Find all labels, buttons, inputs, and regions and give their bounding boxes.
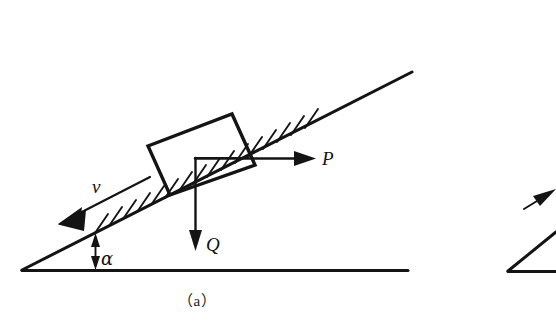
partial-incline-line — [508, 232, 556, 271]
partial-figure-b — [508, 189, 556, 272]
figure-a-group: v P Q α （a） — [22, 72, 412, 309]
block-rectangle — [148, 114, 255, 195]
velocity-label: v — [92, 176, 101, 197]
diagram-canvas: v P Q α （a） — [0, 0, 556, 328]
figure-container: v P Q α （a） — [0, 0, 556, 328]
velocity-arrow — [58, 177, 150, 231]
figure-caption: （a） — [178, 293, 216, 309]
partial-arrow — [524, 189, 556, 209]
angle-alpha-label: α — [101, 248, 113, 269]
force-p-label: P — [321, 148, 334, 169]
angle-marker-alpha — [91, 233, 100, 270]
weight-q-label: Q — [206, 234, 220, 255]
